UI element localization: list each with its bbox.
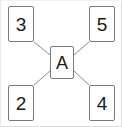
- edge-5-to-a: [74, 42, 89, 55]
- node-box-top-right[interactable]: 5: [89, 6, 115, 42]
- diagram-canvas: 3 5 A 2 4: [0, 0, 122, 127]
- edge-2-to-a: [34, 71, 50, 85]
- edge-3-to-a: [34, 42, 50, 55]
- node-box-top-left[interactable]: 3: [8, 6, 34, 42]
- node-box-center[interactable]: A: [50, 46, 74, 79]
- node-box-bottom-left[interactable]: 2: [8, 85, 34, 121]
- node-label-top-left: 3: [16, 15, 27, 34]
- node-box-bottom-right[interactable]: 4: [89, 85, 115, 121]
- edge-4-to-a: [74, 71, 89, 85]
- node-label-bottom-left: 2: [16, 94, 27, 113]
- node-label-center: A: [56, 54, 68, 72]
- node-label-bottom-right: 4: [97, 94, 108, 113]
- node-label-top-right: 5: [97, 15, 108, 34]
